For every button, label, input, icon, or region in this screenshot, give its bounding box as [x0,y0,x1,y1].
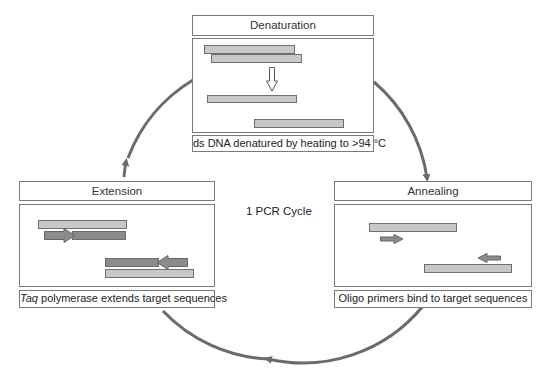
annealing-caption: Oligo primers bind to target sequences [334,290,532,308]
primer-left-arrow-icon [477,253,501,263]
dna-strand [207,95,297,103]
dna-strand [254,119,344,128]
denaturation-caption: ds DNA denatured by heating to >94 °C [192,135,374,152]
primer-right-arrow-icon [380,234,404,244]
extension-title-text: Extension [92,185,143,197]
denaturation-caption-text: ds DNA denatured by heating to >94 °C [193,137,386,149]
extended-strand [105,258,159,267]
primer-right-arrow-icon [44,228,76,243]
dna-strand [204,45,295,54]
extended-strand [72,231,126,240]
arc-denaturation-to-annealing [374,82,427,178]
extension-title: Extension [19,181,215,201]
extension-panel [19,204,215,287]
annealing-title: Annealing [334,181,532,201]
arc-annealing-to-extension [268,306,423,363]
taq-italic: Taq [20,292,38,304]
dna-strand [211,54,302,63]
arc-extension-to-denaturation [124,162,126,177]
extension-caption: Taq polymerase extends target sequences [19,290,215,308]
denaturation-panel [192,38,374,133]
cycle-label: 1 PCR Cycle [246,205,312,217]
denaturation-title-text: Denaturation [250,19,316,31]
denaturation-title: Denaturation [192,15,374,36]
primer-left-arrow-icon [156,255,188,270]
annealing-panel [334,204,532,287]
extension-caption-text: polymerase extends target sequences [38,292,227,304]
dna-strand [424,264,512,273]
dna-strand [369,223,457,232]
dna-strand [105,269,194,278]
annealing-caption-text: Oligo primers bind to target sequences [339,292,528,304]
hollow-down-arrow-icon [266,67,278,92]
annealing-title-text: Annealing [407,185,458,197]
